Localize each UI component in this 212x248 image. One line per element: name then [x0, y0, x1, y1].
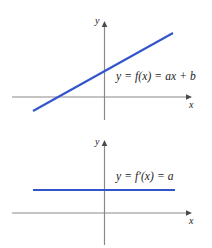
figure-container: y = f(x) = ax + b y x y = f′(x) = a y x — [0, 0, 212, 248]
function-plot-panel: y = f(x) = ax + b y x — [0, 0, 212, 124]
derivative-plot-axes-svg — [0, 124, 212, 248]
y-axis-arrowhead-icon — [102, 140, 108, 146]
derivative-equation-label: y = f′(x) = a — [116, 171, 174, 183]
function-plot-axes-svg — [0, 0, 212, 124]
x-axis-label: x — [189, 100, 194, 110]
x-axis-label: x — [189, 216, 194, 226]
y-axis-label: y — [95, 16, 100, 26]
y-axis-label: y — [95, 137, 100, 147]
derivative-plot-panel: y = f′(x) = a y x — [0, 124, 212, 248]
function-equation-label: y = f(x) = ax + b — [116, 71, 196, 83]
y-axis-arrowhead-icon — [102, 21, 108, 27]
